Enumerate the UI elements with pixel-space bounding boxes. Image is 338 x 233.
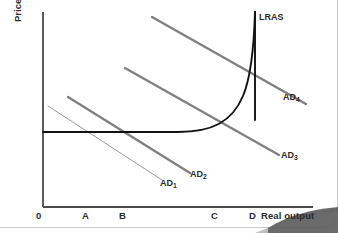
ad2-curve xyxy=(68,97,190,173)
x-axis-tick-c: C xyxy=(211,210,218,221)
x-axis-tick-b: B xyxy=(119,210,126,221)
x-axis-origin-label: 0 xyxy=(36,210,41,221)
ad4-label-text: AD xyxy=(283,92,296,102)
ad4-curve-label: AD4 xyxy=(283,92,300,102)
ad2-label-text: AD xyxy=(190,169,203,179)
x-axis-tick-a: A xyxy=(82,210,89,221)
x-axis-tick-d: D xyxy=(249,210,256,221)
ad3-curve-label: AD3 xyxy=(281,150,298,160)
ad3-label-subscript: 3 xyxy=(294,154,298,161)
ad4-label-subscript: 4 xyxy=(296,96,300,103)
ad1-curve xyxy=(48,106,162,180)
x-axis-label: Real output xyxy=(261,210,314,221)
ad2-curve-label: AD2 xyxy=(190,169,207,179)
ad-as-diagram-svg xyxy=(0,0,338,233)
ad1-label-text: AD xyxy=(160,178,173,188)
lras-label-text: LRAS xyxy=(259,12,284,22)
ad1-label-subscript: 1 xyxy=(173,182,177,189)
ad1-curve-label: AD1 xyxy=(160,178,177,188)
lras-curve-label: LRAS xyxy=(259,12,284,22)
ad3-label-text: AD xyxy=(281,150,294,160)
ad4-curve xyxy=(152,17,306,104)
as-curve xyxy=(43,12,255,132)
figure-root: Price level 0 A B C D Real output LRAS A… xyxy=(0,0,338,233)
y-axis-label: Price level xyxy=(12,0,26,22)
ad2-label-subscript: 2 xyxy=(203,173,207,180)
